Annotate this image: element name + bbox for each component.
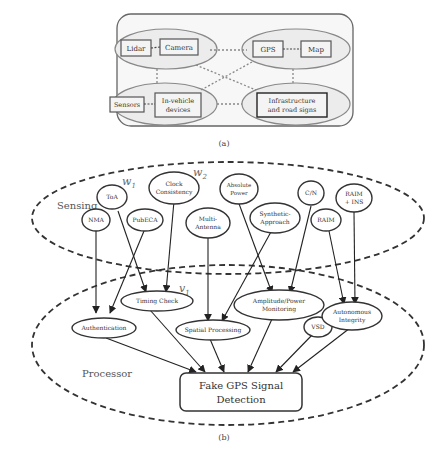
label-w1: w1 xyxy=(122,175,136,190)
label-map: Map xyxy=(308,46,324,54)
label-multi-2: Antenna xyxy=(194,223,221,230)
processor-label: Processor xyxy=(82,368,132,379)
label-gps: GPS xyxy=(260,46,275,54)
label-synth-1: Synthetic- xyxy=(260,210,291,218)
label-auton-1: Autonomous xyxy=(332,308,371,315)
label-camera: Camera xyxy=(165,44,193,52)
label-timing: Timing Check xyxy=(136,297,179,305)
label-pubeca: PubECA xyxy=(132,216,158,223)
label-vsd: VSD xyxy=(310,323,324,330)
label-amp-2: Monitoring xyxy=(262,305,296,313)
edge-raim-auton xyxy=(329,231,344,304)
edge-timing-output xyxy=(150,310,205,372)
panel-b: Sensing Processor w1 w2 v1 xyxy=(32,162,424,442)
edge-raimins-auton xyxy=(354,212,355,304)
label-abs-2: Power xyxy=(230,190,248,196)
edge-auth-output xyxy=(106,338,196,372)
label-raimins-1: RAIM xyxy=(345,190,362,197)
label-raim: RAIM xyxy=(317,216,334,223)
label-auth: Authentication xyxy=(81,324,127,331)
label-synth-2: Approach xyxy=(259,218,289,226)
label-nma: NMA xyxy=(88,216,104,223)
label-spatial: Spatial Processing xyxy=(185,326,242,334)
processor-nodes: Timing Check Authentication Spatial Proc… xyxy=(72,290,382,340)
caption-a: (a) xyxy=(218,139,229,148)
edge-spatial-output xyxy=(210,339,224,372)
label-sensors: Sensors xyxy=(114,101,140,109)
label-raimins-2: + INS xyxy=(345,198,364,205)
label-multi-1: Multi- xyxy=(199,215,217,222)
panel-a: Lidar Camera GPS Map Sensors In-vehicle … xyxy=(110,14,353,148)
label-amp-1: Amplitude/Power xyxy=(252,297,305,305)
edge-clock-timing xyxy=(166,201,174,292)
label-cn: C/N xyxy=(305,189,317,196)
label-clock-1: Clock xyxy=(165,180,182,187)
node-absolute-power xyxy=(220,174,258,204)
label-output-2: Detection xyxy=(216,394,266,405)
figure: Lidar Camera GPS Map Sensors In-vehicle … xyxy=(0,0,448,458)
label-toa: ToA xyxy=(106,193,118,200)
edge-vsd-output xyxy=(276,333,314,372)
label-infra-1: Infrastructure xyxy=(269,97,316,105)
label-clock-2: Consistency xyxy=(156,188,193,196)
label-output-1: Fake GPS Signal xyxy=(199,380,283,391)
label-abs-1: Absolute xyxy=(226,182,251,188)
label-lidar: Lidar xyxy=(127,45,147,53)
caption-b: (b) xyxy=(218,433,229,442)
label-invehicle-1: In-vehicle xyxy=(162,97,194,105)
label-infra-2: and road signs xyxy=(268,106,317,114)
edge-amp-output xyxy=(248,319,272,372)
label-auton-2: Integrity xyxy=(339,316,366,324)
label-invehicle-2: devices xyxy=(166,106,191,114)
node-fake-gps-detection xyxy=(180,373,302,411)
